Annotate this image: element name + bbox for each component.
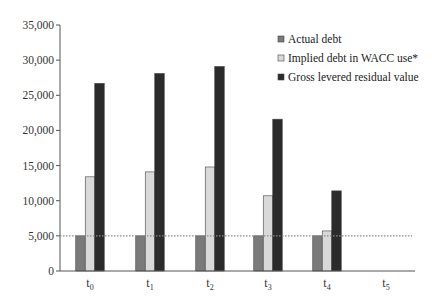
y-tick-label: 30,000 [22, 54, 54, 67]
bar-t2-series-2 [215, 66, 225, 271]
x-tick-label: t4 [323, 276, 330, 292]
x-tick-label: t1 [146, 276, 153, 292]
x-axis: t0t1t2t3t4t5 [60, 271, 415, 292]
x-tick-label: t3 [264, 276, 271, 292]
legend-label: Gross levered residual value [288, 71, 419, 83]
bar-group-t1 [136, 73, 165, 271]
y-tick-label: 10,000 [22, 195, 54, 208]
bar-group-t0 [76, 83, 105, 271]
bar-t1-series-2 [155, 73, 165, 271]
bar-t3-series-0 [254, 236, 264, 271]
bar-t4-series-1 [322, 231, 332, 271]
y-axis: 05,00010,00015,00020,00025,00030,00035,0… [22, 19, 60, 277]
y-tick-label: 35,000 [22, 19, 54, 32]
bar-t0-series-0 [76, 236, 86, 271]
y-tick-label: 15,000 [22, 160, 54, 173]
bar-t2-series-1 [205, 167, 215, 271]
bar-chart: 05,00010,00015,00020,00025,00030,00035,0… [0, 0, 437, 300]
bar-group-t3 [254, 119, 283, 271]
bar-t0-series-2 [95, 83, 105, 271]
x-tick-label: t2 [206, 276, 213, 292]
x-tick-label: t5 [382, 276, 389, 292]
bar-t1-series-1 [145, 172, 155, 271]
y-tick-label: 25,000 [22, 89, 54, 102]
legend-swatch-icon [278, 36, 284, 42]
y-tick-label: 0 [48, 265, 54, 277]
legend-swatch-icon [278, 74, 284, 80]
legend-label: Implied debt in WACC use* [288, 52, 418, 65]
legend: Actual debtImplied debt in WACC use*Gros… [278, 33, 419, 83]
y-tick-label: 20,000 [22, 124, 54, 137]
legend-item: Gross levered residual value [278, 71, 419, 83]
x-tick-label: t0 [86, 276, 93, 292]
legend-label: Actual debt [288, 33, 342, 45]
bar-t2-series-0 [196, 236, 206, 271]
bar-t0-series-1 [85, 177, 95, 271]
bar-t3-series-2 [273, 119, 283, 271]
bar-t1-series-0 [136, 236, 146, 271]
legend-item: Actual debt [278, 33, 342, 45]
legend-item: Implied debt in WACC use* [278, 52, 418, 65]
bar-group-t2 [196, 66, 225, 271]
bar-series [76, 66, 342, 271]
y-tick-label: 5,000 [28, 230, 54, 243]
bar-t4-series-0 [313, 236, 323, 271]
bar-group-t4 [313, 191, 342, 271]
bar-t3-series-1 [263, 196, 273, 271]
legend-swatch-icon [278, 55, 284, 61]
bar-t4-series-2 [332, 191, 342, 271]
